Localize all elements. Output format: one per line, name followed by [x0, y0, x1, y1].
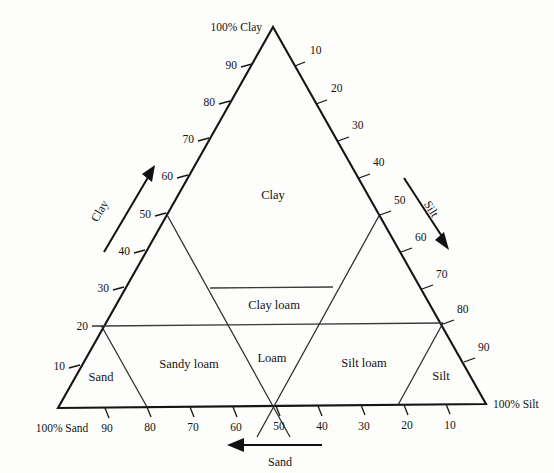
- boundary-clay-loam-top: [210, 287, 333, 288]
- boundary-clay-right-edge: [257, 214, 380, 437]
- bottom-tick-10: [446, 404, 450, 414]
- left-tick-80: [219, 101, 230, 104]
- left-tick-label-10: 10: [54, 360, 66, 372]
- bottom-tick-label-80: 80: [144, 421, 156, 433]
- bottom-tick-label-90: 90: [101, 422, 113, 434]
- left-tick-40: [134, 250, 145, 253]
- clay-axis-name: Clay: [88, 198, 112, 225]
- right-tick-20: [316, 100, 327, 104]
- left-tick-label-60: 60: [162, 170, 174, 182]
- right-tick-30: [338, 137, 349, 141]
- bottom-tick-label-40: 40: [316, 420, 328, 432]
- bottom-tick-70: [190, 407, 194, 417]
- left-tick-30: [113, 287, 124, 290]
- region-label-loam: Loam: [257, 351, 286, 365]
- bottom-tick-40: [318, 406, 322, 416]
- bottom-tick-90: [105, 408, 109, 418]
- sand-axis-arrow-head-icon: [227, 438, 244, 452]
- silt-axis-arrow-head-icon: [435, 232, 449, 250]
- bottom-tick-60: [233, 407, 237, 417]
- left-tick-10: [69, 365, 80, 368]
- boundary-silt-left-edge: [398, 323, 443, 405]
- left-tick-60: [177, 175, 188, 178]
- bottom-tick-label-50: 50: [273, 420, 285, 432]
- left-tick-50: [155, 213, 166, 216]
- sand-axis-arrow-group: [227, 438, 322, 452]
- right-tick-70: [422, 285, 433, 289]
- bottom-tick-20: [404, 405, 408, 415]
- bottom-tick-label-30: 30: [358, 420, 370, 432]
- clay-axis-arrow-head-icon: [142, 165, 155, 182]
- bottom-tick-80: [147, 407, 151, 417]
- boundary-clay-20-horizontal: [102, 323, 444, 326]
- right-tick-80: [443, 320, 454, 324]
- corner-label-bottom-left-sand: 100% Sand: [36, 422, 89, 434]
- right-tick-60: [401, 248, 412, 252]
- right-tick-label-10: 10: [310, 44, 322, 56]
- left-tick-label-70: 70: [183, 133, 195, 145]
- corner-label-bottom-right-silt: 100% Silt: [493, 398, 539, 410]
- right-tick-label-40: 40: [373, 156, 385, 168]
- region-label-silt-loam: Silt loam: [341, 356, 387, 370]
- right-axis-ticks-group: [295, 62, 475, 362]
- sand-axis-name: Sand: [268, 455, 292, 469]
- left-tick-label-50: 50: [140, 208, 152, 220]
- right-tick-40: [359, 174, 370, 178]
- right-tick-label-50: 50: [394, 194, 406, 206]
- right-tick-label-80: 80: [457, 303, 469, 315]
- right-tick-90: [464, 358, 475, 362]
- bottom-tick-30: [361, 405, 365, 415]
- left-tick-label-30: 30: [98, 282, 110, 294]
- left-tick-label-20: 20: [77, 320, 89, 332]
- silt-axis-name: Silt: [421, 198, 442, 220]
- left-tick-label-90: 90: [226, 59, 238, 71]
- bottom-tick-label-70: 70: [187, 421, 199, 433]
- right-tick-label-60: 60: [415, 231, 427, 243]
- corner-label-top-clay: 100% Clay: [211, 21, 263, 34]
- bottom-tick-label-60: 60: [230, 421, 242, 433]
- ternary-diagram-canvas: 20 30 40 50 60 70 80 90 10 10 20 30 40 5…: [0, 0, 554, 473]
- left-tick-70: [198, 138, 209, 141]
- right-tick-50: [380, 211, 391, 215]
- region-label-clay-loam: Clay loam: [248, 298, 300, 312]
- bottom-tick-label-20: 20: [401, 419, 413, 431]
- right-tick-10: [295, 62, 305, 66]
- region-label-sand: Sand: [89, 370, 115, 384]
- region-label-sandy-loam: Sandy loam: [159, 357, 219, 371]
- bottom-tick-label-10: 10: [444, 419, 456, 431]
- right-tick-label-30: 30: [352, 119, 364, 131]
- region-label-clay: Clay: [261, 188, 285, 202]
- left-tick-label-40: 40: [119, 245, 131, 257]
- right-tick-label-20: 20: [331, 82, 343, 94]
- region-label-silt: Silt: [432, 369, 450, 383]
- left-tick-label-80: 80: [204, 96, 216, 108]
- soil-texture-triangle-diagram: 20 30 40 50 60 70 80 90 10 10 20 30 40 5…: [0, 0, 554, 473]
- right-tick-label-70: 70: [436, 268, 448, 280]
- right-tick-label-90: 90: [478, 341, 490, 353]
- boundary-sand-right-edge: [102, 326, 148, 407]
